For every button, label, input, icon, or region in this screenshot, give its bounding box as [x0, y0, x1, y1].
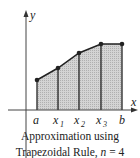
tick-label-x2: x [73, 113, 80, 127]
tick-labels: a x 1 x 2 x 3 b [33, 113, 125, 129]
caption-line-1: Approximation using [0, 128, 140, 144]
x-axis-label: x [130, 95, 137, 109]
caption-line-2-prefix: Trapezoidal Rule, [16, 146, 101, 158]
y-axis-arrow-icon [24, 10, 29, 17]
tick-label-b: b [119, 113, 125, 127]
tick-label-x1: x [52, 113, 59, 127]
tick-label-a: a [33, 113, 39, 127]
caption-line-2: Trapezoidal Rule, n = 4 [0, 144, 140, 158]
y-axis-label: y [29, 8, 36, 22]
caption: Approximation using Trapezoidal Rule, n … [0, 128, 140, 158]
caption-line-2-suffix: = 4 [106, 146, 124, 158]
tick-label-x3: x [95, 113, 102, 127]
